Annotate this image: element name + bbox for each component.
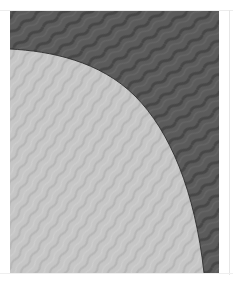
fabric-swatch-graphic (10, 11, 219, 273)
product-image[interactable] (10, 11, 219, 273)
bottom-divider (0, 273, 233, 274)
right-divider (229, 10, 230, 275)
